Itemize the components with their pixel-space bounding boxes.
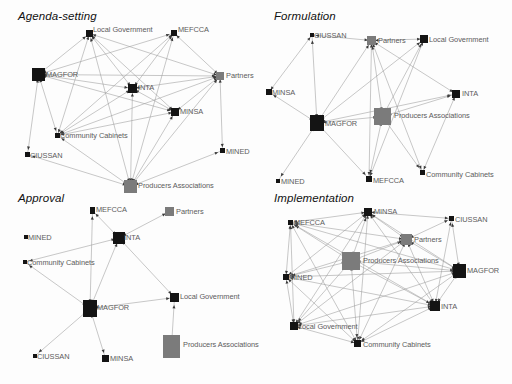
node-label: Partners bbox=[226, 72, 254, 80]
edge bbox=[58, 136, 131, 187]
node-local-government[interactable] bbox=[420, 35, 428, 43]
node-local-government[interactable] bbox=[86, 30, 93, 37]
node-label: Local Government bbox=[429, 36, 489, 44]
node-inta[interactable] bbox=[430, 301, 440, 311]
node-label: Local Government bbox=[298, 323, 358, 331]
node-minsa[interactable] bbox=[102, 355, 109, 362]
edge-arrowhead bbox=[214, 152, 218, 155]
node-magfor[interactable] bbox=[83, 300, 97, 317]
node-producers-associations[interactable] bbox=[342, 252, 360, 270]
edge-arrowhead bbox=[169, 36, 172, 40]
edge-arrowhead bbox=[289, 226, 292, 229]
edge-arrowhead bbox=[362, 171, 365, 175]
node-label: CIUSSAN bbox=[314, 32, 347, 40]
node-minsa[interactable] bbox=[171, 108, 179, 116]
node-label: MEFCCA bbox=[178, 26, 209, 34]
node-partners[interactable] bbox=[401, 234, 412, 245]
node-mefcca[interactable] bbox=[90, 207, 95, 214]
node-community-cabinets[interactable] bbox=[420, 170, 425, 175]
panel-approval: MEFCCAPartnersINTAMINEDCommunity Cabinet… bbox=[0, 192, 256, 384]
edge bbox=[317, 41, 372, 124]
edge-arrowhead bbox=[366, 45, 369, 49]
edge-arrowhead bbox=[167, 108, 171, 111]
edge bbox=[131, 76, 221, 187]
node-partners[interactable] bbox=[367, 36, 376, 45]
edge bbox=[90, 34, 221, 77]
node-label: Community Cabinets bbox=[363, 341, 431, 349]
node-producers-associations[interactable] bbox=[163, 335, 180, 358]
edge bbox=[286, 277, 358, 344]
node-partners[interactable] bbox=[216, 72, 224, 80]
node-label: MEFCCA bbox=[373, 177, 404, 185]
edge-arrowhead bbox=[212, 74, 215, 77]
edge bbox=[35, 309, 90, 357]
node-producers-associations[interactable] bbox=[374, 108, 391, 125]
edge bbox=[39, 33, 175, 75]
node-magfor[interactable] bbox=[453, 264, 466, 278]
node-inta[interactable] bbox=[452, 90, 460, 98]
edge-arrowhead bbox=[54, 127, 57, 131]
node-local-government[interactable] bbox=[290, 322, 298, 330]
node-label: INTA bbox=[138, 84, 154, 92]
node-mined[interactable] bbox=[220, 148, 225, 153]
node-label: MINSA bbox=[374, 208, 397, 216]
node-label: Community Cabinets bbox=[27, 259, 95, 267]
node-mined[interactable] bbox=[276, 179, 280, 183]
node-label: MINSA bbox=[180, 108, 203, 116]
node-label: Producers Associations bbox=[394, 112, 470, 120]
node-label: CIUSSAN bbox=[37, 353, 70, 361]
node-label: CIUSSAN bbox=[455, 216, 488, 224]
node-community-cabinets[interactable] bbox=[354, 340, 361, 347]
node-inta[interactable] bbox=[128, 84, 137, 93]
node-label: MEFCCA bbox=[96, 206, 127, 214]
node-label: INTA bbox=[462, 90, 478, 98]
node-label: CIUSSAN bbox=[30, 152, 63, 160]
edge-arrowhead bbox=[93, 34, 97, 37]
edge bbox=[39, 34, 90, 75]
node-mefcca[interactable] bbox=[288, 220, 293, 225]
edge bbox=[58, 34, 90, 136]
edge-arrowhead bbox=[418, 44, 421, 48]
edge bbox=[312, 35, 317, 123]
edge bbox=[372, 41, 423, 173]
edge-arrowhead bbox=[172, 305, 175, 308]
edge-arrowhead bbox=[371, 46, 374, 50]
edge bbox=[372, 41, 457, 95]
edge bbox=[119, 238, 175, 298]
edge-arrowhead bbox=[424, 166, 427, 170]
edge bbox=[294, 271, 460, 326]
edge bbox=[133, 89, 176, 113]
edge bbox=[58, 33, 175, 136]
edge bbox=[369, 117, 383, 180]
edge bbox=[407, 240, 436, 307]
node-partners[interactable] bbox=[165, 207, 174, 216]
node-label: Partners bbox=[414, 236, 442, 244]
edge bbox=[39, 75, 58, 136]
edge-arrowhead bbox=[91, 216, 94, 219]
edge bbox=[131, 33, 175, 187]
node-magfor[interactable] bbox=[310, 115, 324, 131]
edge bbox=[174, 33, 220, 76]
node-minsa[interactable] bbox=[364, 208, 372, 216]
node-ciussan[interactable] bbox=[449, 216, 454, 221]
node-label: MINED bbox=[28, 234, 52, 242]
edge bbox=[90, 34, 133, 89]
edge-arrowhead bbox=[281, 173, 284, 177]
node-label: MINED bbox=[226, 148, 250, 156]
node-magfor[interactable] bbox=[32, 68, 45, 81]
edge bbox=[58, 89, 133, 136]
node-label: Producers Associations bbox=[363, 257, 439, 265]
node-label: MEFCCA bbox=[294, 219, 325, 227]
node-label: MINSA bbox=[110, 355, 133, 363]
node-local-government[interactable] bbox=[170, 293, 179, 302]
edge-arrowhead bbox=[170, 116, 173, 120]
edge-arrowhead bbox=[221, 144, 224, 147]
node-mefcca[interactable] bbox=[171, 30, 177, 36]
node-mefcca[interactable] bbox=[366, 176, 372, 182]
node-label: Local Government bbox=[93, 26, 153, 34]
edge-arrowhead bbox=[307, 37, 310, 41]
edge-arrowhead bbox=[214, 80, 217, 84]
edge bbox=[358, 212, 369, 344]
edge bbox=[286, 223, 291, 278]
edge bbox=[131, 89, 133, 187]
